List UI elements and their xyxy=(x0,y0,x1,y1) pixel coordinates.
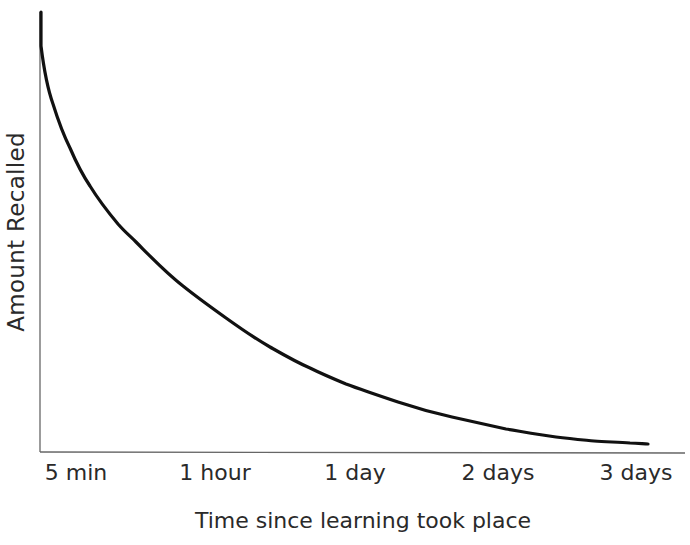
x-axis-label: Time since learning took place xyxy=(195,508,531,533)
x-tick-1-hour: 1 hour xyxy=(179,460,250,485)
y-axis-label: Amount Recalled xyxy=(3,132,29,332)
x-tick-2-days: 2 days xyxy=(462,460,535,485)
x-tick-1-day: 1 day xyxy=(324,460,385,485)
x-tick-3-days: 3 days xyxy=(600,460,673,485)
x-axis-line xyxy=(40,452,685,453)
x-tick-5-min: 5 min xyxy=(45,460,107,485)
forgetting-curve xyxy=(41,12,648,444)
